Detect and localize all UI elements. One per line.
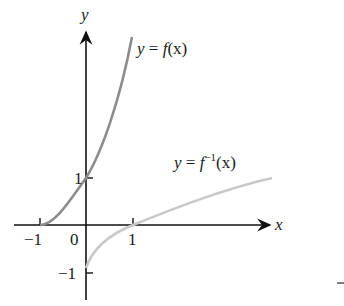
tick-label-origin: 0 — [70, 231, 79, 248]
tick-label-y-1: 1 — [74, 170, 83, 187]
tick-label-y-neg1: −1 — [58, 265, 76, 282]
label-f-inverse: y = f−1(x) — [174, 152, 236, 171]
y-axis-label: y — [81, 6, 89, 23]
curve-f-inverse — [86, 178, 272, 268]
tick-label-x-1: 1 — [128, 231, 137, 248]
tick-label-x-neg1: −1 — [24, 231, 42, 248]
x-axis-label: x — [275, 216, 283, 233]
label-f: yy = = f(x) — [137, 40, 187, 57]
